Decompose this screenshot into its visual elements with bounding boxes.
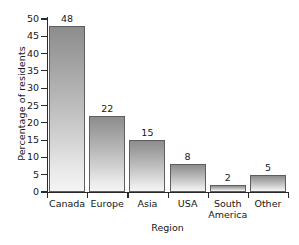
y-tick-label-wrap: 5 [0, 170, 39, 180]
bar-value-label: 8 [168, 152, 208, 162]
x-category-label: Other [238, 198, 298, 209]
y-tick-label: 0 [1, 187, 39, 197]
y-tick-mark [41, 122, 47, 123]
bar [170, 164, 206, 192]
bar [89, 116, 125, 192]
bar [129, 140, 165, 192]
bar-value-label: 48 [47, 14, 87, 24]
y-tick-mark [41, 70, 47, 71]
y-tick-label: 50 [1, 14, 39, 24]
x-axis-title: Region [47, 222, 288, 233]
y-tick-mark [41, 140, 47, 141]
y-tick-label-wrap: 50 [0, 14, 39, 24]
y-tick-mark [41, 53, 47, 54]
y-tick-label-wrap: 0 [0, 187, 39, 197]
bar-chart: Percentage of residents 0510152025303540… [0, 0, 299, 245]
y-tick-mark [41, 105, 47, 106]
y-tick-label-wrap: 25 [0, 101, 39, 111]
y-tick-label: 30 [1, 83, 39, 93]
bar [210, 185, 246, 192]
y-tick-label-wrap: 40 [0, 49, 39, 59]
y-tick-mark [41, 88, 47, 89]
y-tick-label: 25 [1, 101, 39, 111]
y-tick-label: 5 [1, 170, 39, 180]
y-tick-label-wrap: 20 [0, 118, 39, 128]
y-tick-label: 15 [1, 135, 39, 145]
y-tick-label: 40 [1, 49, 39, 59]
y-tick-label: 10 [1, 152, 39, 162]
y-tick-mark [41, 36, 47, 37]
y-tick-label-wrap: 45 [0, 31, 39, 41]
y-tick-label: 45 [1, 31, 39, 41]
y-tick-label-wrap: 35 [0, 66, 39, 76]
y-tick-label: 35 [1, 66, 39, 76]
y-tick-mark [41, 157, 47, 158]
y-tick-label-wrap: 30 [0, 83, 39, 93]
y-tick-mark [41, 174, 47, 175]
bar-value-label: 2 [208, 173, 248, 183]
bar [250, 175, 286, 192]
y-tick-label-wrap: 15 [0, 135, 39, 145]
bar-value-label: 22 [87, 104, 127, 114]
bar-value-label: 15 [127, 128, 167, 138]
y-tick-label-wrap: 10 [0, 152, 39, 162]
y-tick-label: 20 [1, 118, 39, 128]
bar-value-label: 5 [248, 163, 288, 173]
bar [49, 26, 85, 192]
